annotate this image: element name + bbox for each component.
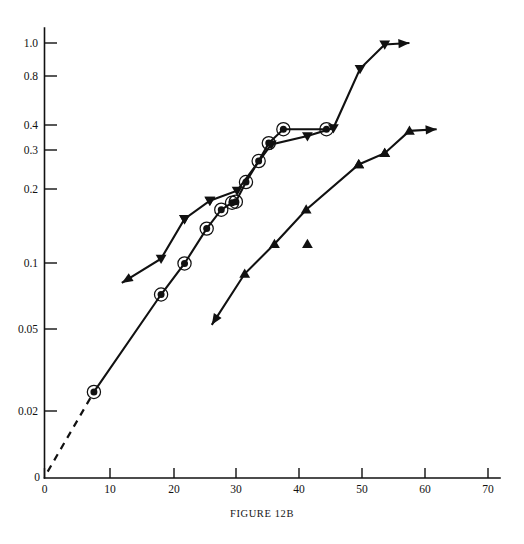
extrapolation-dashed-line bbox=[48, 392, 94, 472]
y-tick-label: 0.05 bbox=[18, 323, 38, 335]
x-tick-40: 40 bbox=[293, 468, 305, 495]
x-tick-label: 50 bbox=[356, 483, 368, 495]
y-tick-label: 0.02 bbox=[18, 405, 38, 417]
y-tick-label: 0.3 bbox=[24, 144, 39, 156]
y-tick-0.3: 0.3 bbox=[24, 144, 57, 156]
data-point-circle bbox=[218, 206, 225, 213]
figure-container: 1.0 0.8 0.4 0.3 0.2 0.1 bbox=[0, 0, 524, 544]
x-tick-label: 40 bbox=[293, 483, 305, 495]
x-tick-10: 10 bbox=[104, 468, 116, 495]
y-tick-label: 0.8 bbox=[24, 70, 39, 82]
y-tick-label: 1.0 bbox=[24, 37, 39, 49]
scatter-triangle-down bbox=[179, 215, 190, 224]
end-arrow-head bbox=[425, 125, 436, 134]
series-line bbox=[212, 129, 437, 325]
axes-group bbox=[45, 28, 501, 478]
x-tick-60: 60 bbox=[419, 468, 431, 495]
data-point-circle bbox=[203, 225, 210, 232]
data-point-circle bbox=[158, 291, 165, 298]
data-point-circle bbox=[181, 260, 188, 267]
y-tick-0.2: 0.2 bbox=[24, 183, 57, 195]
figure-caption: FIGURE 12B bbox=[0, 508, 524, 519]
x-tick-label: 0 bbox=[42, 483, 48, 495]
scatter-triangle-up bbox=[302, 239, 313, 248]
data-point-circle bbox=[232, 198, 239, 205]
series-up-triangle-series bbox=[212, 125, 437, 325]
y-tick-0.8: 0.8 bbox=[24, 70, 57, 82]
data-series-layer bbox=[48, 39, 437, 472]
x-tick-label: 70 bbox=[482, 483, 494, 495]
y-tick-0.4: 0.4 bbox=[24, 119, 57, 131]
start-arrow-head bbox=[122, 273, 134, 283]
y-tick-1.0: 1.0 bbox=[24, 37, 57, 49]
series-circle-marker-series bbox=[48, 123, 333, 472]
y-tick-label: 0.4 bbox=[24, 119, 39, 131]
x-tick-20: 20 bbox=[168, 468, 180, 495]
y-tick-0.05: 0.05 bbox=[18, 323, 57, 335]
y-tick-0.02: 0.02 bbox=[18, 405, 57, 417]
x-tick-70: 70 bbox=[482, 468, 494, 495]
y-axis-ticks: 1.0 0.8 0.4 0.3 0.2 0.1 bbox=[18, 37, 57, 483]
chart-plot-area: 1.0 0.8 0.4 0.3 0.2 0.1 bbox=[0, 0, 524, 544]
data-point-circle bbox=[280, 126, 287, 133]
data-point-triangle-down bbox=[355, 65, 366, 74]
x-tick-label: 20 bbox=[168, 483, 180, 495]
y-tick-label: 0.2 bbox=[24, 183, 39, 195]
x-tick-label: 30 bbox=[230, 483, 242, 495]
x-tick-50: 50 bbox=[356, 468, 368, 495]
data-point-circle bbox=[90, 388, 97, 395]
data-point-triangle-down bbox=[156, 255, 167, 264]
series-line bbox=[94, 129, 327, 392]
series-line bbox=[122, 43, 410, 283]
end-arrow-head bbox=[398, 39, 409, 48]
y-axis-origin-label: 0 bbox=[34, 471, 40, 483]
y-tick-0.1: 0.1 bbox=[24, 257, 57, 269]
x-tick-0: 0 bbox=[42, 468, 48, 495]
x-tick-label: 60 bbox=[419, 483, 431, 495]
y-tick-label: 0.1 bbox=[24, 257, 39, 269]
x-axis-ticks: 0 10 20 30 40 50 bbox=[42, 468, 494, 495]
start-arrow-head bbox=[212, 313, 222, 325]
x-tick-30: 30 bbox=[230, 468, 242, 495]
x-tick-label: 10 bbox=[104, 483, 116, 495]
